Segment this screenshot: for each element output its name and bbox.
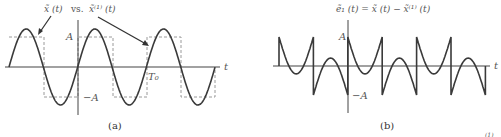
label-A-b: A	[338, 31, 346, 42]
arrow-left	[40, 16, 51, 32]
caption-a: (a)	[108, 120, 122, 131]
title-x-approx: x̃⁽¹⁾ (t)	[89, 4, 116, 14]
panel-b: ẽ₁ (t) = x̃ (t) − x̃⁽¹⁾ (t) A −A t (b) (…	[273, 4, 499, 137]
label-A: A	[65, 31, 73, 42]
footer-fragment: (1)	[485, 131, 494, 137]
label-t-b: t	[494, 60, 499, 71]
panel-a: x̃ (t) vs. x̃⁽¹⁾ (t) A −A T₀ t (a)	[5, 4, 229, 131]
title-vs: vs.	[70, 4, 84, 14]
label-neg-A-b: −A	[352, 90, 368, 101]
label-t: t	[224, 61, 229, 72]
label-T0: T₀	[148, 71, 159, 82]
arrow-right	[98, 17, 146, 44]
title-error: ẽ₁ (t) = x̃ (t) − x̃⁽¹⁾ (t)	[336, 4, 431, 14]
figure: x̃ (t) vs. x̃⁽¹⁾ (t) A −A T₀ t (a) ẽ₁ (t…	[0, 0, 501, 137]
title-x-tilde: x̃ (t)	[44, 4, 63, 14]
caption-b: (b)	[380, 120, 394, 131]
label-neg-A: −A	[83, 92, 99, 103]
